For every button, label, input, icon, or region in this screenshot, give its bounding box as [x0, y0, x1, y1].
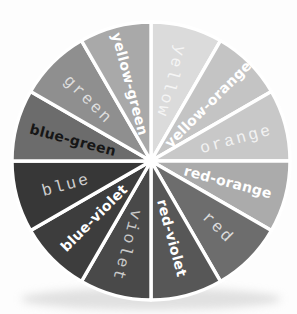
color-wheel: yellow yellow-orange orange red-orange r… [0, 0, 297, 314]
color-wheel-figure: yellow yellow-orange orange red-orange r… [0, 0, 297, 314]
